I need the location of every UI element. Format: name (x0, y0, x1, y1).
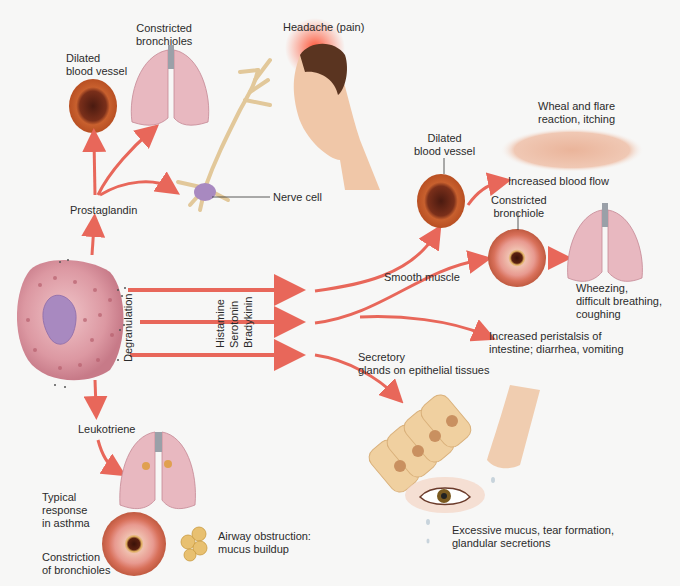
prostaglandin-arrows (92, 132, 170, 255)
label-peristalsis: Increased peristalsis of intestine; diar… (489, 330, 624, 356)
label-serotonin: Serotonin (228, 301, 241, 348)
label-line: bronchiole (491, 207, 547, 220)
label-line: Constricted (491, 194, 547, 207)
label-line: blood vessel (66, 65, 127, 78)
label-line: Excessive mucus, tear formation, (452, 524, 614, 537)
label-line: glands on epithelial tissues (358, 364, 489, 377)
lungs-right (568, 203, 643, 281)
label-line: Wheal and flare (538, 100, 615, 113)
label-line: response (42, 504, 90, 517)
wheal-skin (500, 128, 644, 172)
label-asthma: Typical response in asthma (42, 491, 90, 530)
label-degranulation: Degranulation (122, 294, 135, 363)
label-constricted-bronchioles-top: Constricted bronchioles (136, 22, 192, 48)
label-headache: Headache (pain) (283, 21, 364, 34)
label-wheezing: Wheezing, difficult breathing, coughing (576, 282, 662, 321)
lungs-asthma (120, 432, 196, 509)
label-constriction: Constriction of bronchioles (42, 551, 111, 577)
eye (405, 477, 485, 513)
label-line: coughing (576, 308, 662, 321)
label-dilated-vessel-right: Dilated blood vessel (414, 132, 475, 158)
label-line: mucus buildup (218, 543, 311, 556)
label-line: Dilated (66, 52, 127, 65)
label-line: Dilated (414, 132, 475, 145)
label-bradykinin: Bradykinin (242, 297, 255, 348)
lungs-top (131, 45, 209, 125)
dilated-vessel-right (417, 174, 465, 228)
label-blood-flow: Increased blood flow (508, 175, 609, 188)
label-line: Airway obstruction: (218, 530, 311, 543)
label-line: Wheezing, (576, 282, 662, 295)
label-line: Increased peristalsis of (489, 330, 624, 343)
label-line: Constriction (42, 551, 111, 564)
label-prostaglandin: Prostaglandin (70, 204, 137, 217)
label-line: Typical (42, 491, 90, 504)
label-line: glandular secretions (452, 537, 614, 550)
label-airway: Airway obstruction: mucus buildup (218, 530, 311, 556)
label-line: reaction, itching (538, 113, 615, 126)
label-line: difficult breathing, (576, 295, 662, 308)
label-dilated-vessel-left: Dilated blood vessel (66, 52, 127, 78)
label-line: blood vessel (414, 145, 475, 158)
label-line: intestine; diarrhea, vomiting (489, 343, 624, 356)
mast-cell (17, 259, 126, 388)
label-line: of bronchioles (42, 564, 111, 577)
label-leukotriene: Leukotriene (78, 423, 136, 436)
label-smooth-muscle: Smooth muscle (384, 271, 460, 284)
label-line: in asthma (42, 517, 90, 530)
asthma-bronchiole (102, 512, 166, 576)
label-mucus: Excessive mucus, tear formation, glandul… (452, 524, 614, 550)
dilated-vessel-left (69, 79, 117, 133)
label-wheal: Wheal and flare reaction, itching (538, 100, 615, 126)
label-nerve-cell: Nerve cell (273, 191, 322, 204)
nose (487, 385, 540, 468)
mucus-blobs (181, 527, 207, 561)
label-line: bronchioles (136, 35, 192, 48)
label-line: Constricted (136, 22, 192, 35)
label-constricted-bronchiole-right: Constricted bronchiole (491, 194, 547, 220)
label-line: Secretory (358, 351, 489, 364)
label-histamine: Histamine (214, 299, 227, 348)
mediator-arrows (128, 290, 290, 355)
label-secretory: Secretory glands on epithelial tissues (358, 351, 489, 377)
constricted-bronchiole (488, 229, 546, 287)
